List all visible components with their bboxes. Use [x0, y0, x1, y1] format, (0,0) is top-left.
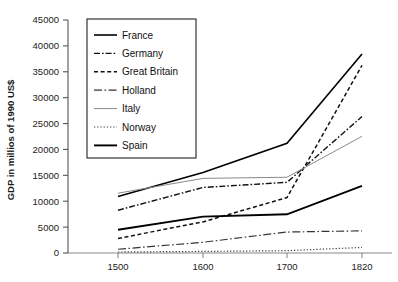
y-axis-label: GDP in millios of 1990 US$: [5, 79, 16, 200]
y-axis-ticks: 0500010000150002000025000300003500040000…: [33, 14, 68, 258]
legend-label-great-britain: Great Britain: [122, 66, 178, 77]
legend: FranceGermanyGreat BritainHollandItalyNo…: [87, 19, 196, 158]
legend-label-norway: Norway: [122, 122, 156, 133]
gdp-line-chart: GDP in millios of 1990 US$ 0500010000150…: [0, 0, 398, 282]
y-tick-label: 40000: [33, 40, 59, 51]
x-axis-ticks: 1500160017001820: [107, 253, 372, 272]
y-tick-label: 35000: [33, 66, 59, 77]
series-line-spain: [118, 186, 362, 230]
legend-label-italy: Italy: [122, 103, 140, 114]
y-tick-label: 0: [54, 247, 59, 258]
x-tick-label: 1600: [192, 261, 213, 272]
y-tick-label: 10000: [33, 196, 59, 207]
y-axis: 0500010000150002000025000300003500040000…: [33, 14, 68, 258]
x-axis: 1500160017001820: [68, 253, 392, 272]
y-axis-label-text: GDP in millios of 1990 US$: [5, 79, 16, 200]
y-tick-label: 20000: [33, 144, 59, 155]
series-line-norway: [118, 247, 362, 252]
legend-label-germany: Germany: [122, 48, 163, 59]
y-tick-label: 45000: [33, 14, 59, 25]
x-tick-label: 1700: [276, 261, 297, 272]
legend-label-spain: Spain: [122, 140, 148, 151]
y-tick-label: 5000: [38, 222, 59, 233]
x-tick-label: 1500: [107, 261, 128, 272]
legend-label-france: France: [122, 30, 154, 41]
y-tick-label: 15000: [33, 170, 59, 181]
chart-canvas: GDP in millios of 1990 US$ 0500010000150…: [0, 0, 398, 282]
series-line-holland: [118, 231, 362, 249]
y-tick-label: 25000: [33, 118, 59, 129]
x-tick-label: 1820: [351, 261, 372, 272]
legend-label-holland: Holland: [122, 85, 156, 96]
y-tick-label: 30000: [33, 92, 59, 103]
